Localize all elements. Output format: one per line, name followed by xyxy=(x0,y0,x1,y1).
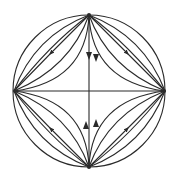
quadrant-top-right-trajectories xyxy=(89,15,165,91)
node-top xyxy=(87,13,91,17)
quadrant-top-left-trajectories xyxy=(14,15,89,91)
node-bottom xyxy=(87,165,91,169)
node-left xyxy=(13,89,17,93)
vertical-arrow-top xyxy=(86,52,92,60)
phase-portrait-svg xyxy=(0,0,178,181)
phase-portrait-diagram xyxy=(0,0,178,181)
vertical-arrow-bottom-2 xyxy=(93,119,99,127)
quadrant-bottom-right-trajectories xyxy=(89,91,165,167)
quadrant-bottom-left-trajectories xyxy=(14,91,89,167)
vertical-arrow-bottom xyxy=(83,121,89,129)
vertical-arrow-top-2 xyxy=(93,54,99,62)
node-right xyxy=(162,89,166,93)
